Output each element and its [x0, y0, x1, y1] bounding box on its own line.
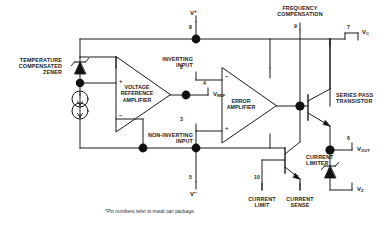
pass-transistor-emitter-arrow — [323, 121, 330, 127]
label-error-amplifier: ERROR AMPLIFIER — [220, 98, 262, 111]
zener-bend-left — [72, 62, 75, 66]
pin-name-vz: VZ — [357, 186, 364, 194]
pass-transistor-collector-lead — [308, 89, 330, 101]
label-current-limiter: CURRENT LIMITER — [306, 154, 350, 166]
pin-number-current-limit: 10 — [254, 174, 260, 180]
output-zener-bend-left — [322, 166, 325, 170]
current-limiter-collector-lead — [285, 142, 300, 154]
label-current-sense: CURRENT SENSE — [274, 196, 326, 208]
pin-number-freq-comp: 9 — [294, 23, 297, 29]
dot-zener-node — [76, 79, 84, 87]
pin-name-vminus: V− — [190, 191, 197, 198]
zener-triangle — [75, 62, 86, 74]
label-inverting-input: INVERTING INPUT — [140, 56, 193, 68]
pin-number-vout: 6 — [347, 135, 350, 141]
zener-bend-right — [86, 59, 89, 63]
schematic-diagram: TEMPERATURE COMPENSATED ZENER VOLTAGE RE… — [0, 0, 388, 229]
pin-number-vc: 7 — [347, 24, 350, 30]
label-non-inverting-input: NON-INVERTING INPUT — [126, 132, 193, 144]
dot-vref — [182, 91, 191, 100]
sign-vrefamp-plus: + — [119, 78, 123, 84]
dot-bottom-rail — [192, 144, 201, 153]
output-zener-triangle — [325, 166, 336, 178]
pin-name-vout: VOUT — [357, 146, 370, 154]
pin-number-vminus: 5 — [189, 174, 192, 180]
sign-vrefamp-minus: − — [119, 113, 123, 119]
pin-number-inverting: 2 — [180, 64, 183, 70]
pin-name-vplus: V+ — [190, 10, 197, 17]
footnote-pin-numbers: *Pin numbers refer to metal can package. — [105, 209, 195, 215]
sign-erramp-minus: − — [225, 74, 229, 80]
pin-number-current-sense: 1 — [296, 174, 299, 180]
label-voltage-reference-amplifier: VOLTAGE REFERENCE AMPLIFIER — [115, 84, 159, 103]
sign-erramp-plus: + — [225, 125, 229, 131]
dot-vplus — [192, 35, 201, 44]
pin-number-non-inverting: 3 — [180, 116, 183, 122]
pin-name-vc: VC — [362, 29, 369, 37]
label-temperature-compensated-zener: TEMPERATURE COMPENSATED ZENER — [4, 57, 62, 76]
label-frequency-compensation: FREQUENCY COMPENSATION — [258, 5, 342, 17]
pin-number-vplus: 8 — [189, 24, 192, 30]
dot-vref-feedback — [139, 144, 148, 153]
pin-name-vref: VREF — [213, 91, 225, 99]
label-series-pass-transistor: SERIES PASS TRANSISTOR — [336, 92, 388, 104]
pin-number-vref: 4 — [203, 80, 206, 86]
dot-freq-comp-node — [295, 101, 304, 110]
